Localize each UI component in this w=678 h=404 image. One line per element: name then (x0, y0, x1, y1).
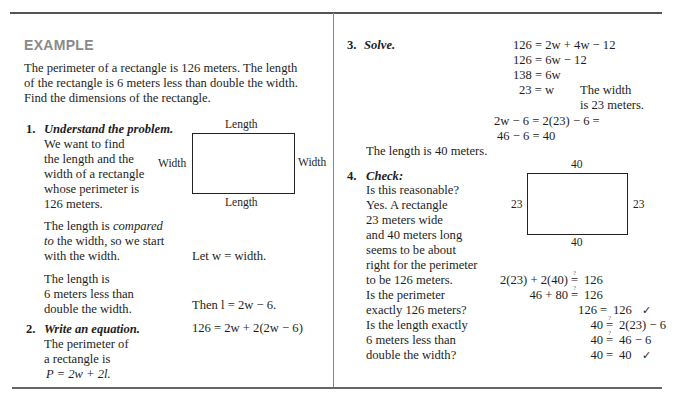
check-lhs: 40 (470, 318, 603, 333)
question-mark: ? (573, 266, 576, 281)
width-note: is 23 meters. (580, 98, 644, 113)
check-rhs: 126 (584, 288, 603, 303)
step-text: to be 126 meters. (366, 273, 453, 288)
step-number: 3. (347, 38, 356, 53)
check-lhs: 126 (470, 303, 597, 318)
check-op: ?= (606, 333, 613, 348)
top-rule (10, 12, 662, 14)
step-text: seems to be about (366, 243, 456, 258)
step-text: with the width. (44, 249, 120, 264)
question-mark: ? (573, 281, 576, 296)
equals-sign: = (600, 303, 607, 318)
check-lhs: 40 (470, 333, 603, 348)
emphasis: to (44, 234, 54, 248)
step-title: Check: (366, 169, 403, 184)
diagram-label-top: Length (225, 117, 258, 132)
question-mark: ? (608, 326, 611, 341)
check-lhs: 2(23) + 2(40) (470, 273, 568, 288)
step-text: The length is (44, 272, 110, 287)
check-op: ?= (571, 288, 578, 303)
checkmark-icon: ✓ (642, 348, 651, 363)
problem-line: of the rectangle is 6 meters less than d… (24, 76, 298, 91)
rectangle-shape (527, 173, 628, 235)
step-number: 2. (26, 322, 35, 337)
check-rhs: 126 (584, 273, 603, 288)
diagram-label-right: 23 (633, 197, 645, 212)
text-run: the width, so we start (54, 234, 165, 248)
step-text: 6 meters less than (44, 287, 134, 302)
diagram-label-bottom: 40 (571, 235, 583, 250)
step-text: and 40 meters long (366, 228, 462, 243)
step-text: width of a rectangle (44, 167, 144, 182)
step-text: exactly 126 meters? (366, 303, 467, 318)
solve-line: 46 − 6 = 40 (497, 129, 555, 144)
step-title: Understand the problem. (44, 122, 173, 137)
check-line: 40 ?= 46 − 6 (470, 333, 678, 348)
width-note: The width (580, 83, 631, 98)
diagram-label-left: 23 (511, 197, 523, 212)
step-text: Is the length exactly (366, 318, 468, 333)
step-text: whose perimeter is (44, 182, 139, 197)
step-text: to the width, so we start (44, 234, 164, 249)
step-number: 1. (26, 122, 35, 137)
diagram-label-left: Width (158, 156, 186, 171)
step-title: Solve. (364, 38, 395, 53)
step-text: Yes. A rectangle (366, 198, 448, 213)
bottom-rule (12, 387, 662, 389)
step-text: double the width. (44, 302, 132, 317)
check-line: 46 + 80 ?= 126 (470, 288, 678, 303)
diagram-label-bottom: Length (225, 195, 258, 210)
step-text: double the width? (366, 348, 456, 363)
check-rhs: 126 (613, 303, 632, 318)
question-mark: ? (608, 311, 611, 326)
emphasis: compared (113, 219, 163, 233)
equals-sign: = (606, 348, 613, 363)
checkmark-icon: ✓ (642, 303, 651, 318)
let-w-statement: Let w = width. (192, 249, 266, 264)
step-text: right for the perimeter (366, 258, 478, 273)
check-line: 40 ?= 2(23) − 6 (470, 318, 678, 333)
length-conclusion: The length is 40 meters. (366, 144, 487, 159)
step-number: 4. (347, 169, 356, 184)
step-text: We want to find (44, 137, 124, 152)
step-text: 126 meters. (44, 197, 103, 212)
step-text: The perimeter of (44, 337, 129, 352)
problem-line: Find the dimensions of the rectangle. (24, 91, 211, 106)
step-text: 23 meters wide (366, 213, 443, 228)
check-rhs: 46 − 6 (619, 333, 651, 348)
equation: 126 = 2w + 2(2w − 6) (192, 321, 303, 336)
solve-line: 126 = 2w + 4w − 12 (513, 38, 615, 53)
solve-line: 2w − 6 = 2(23) − 6 = (494, 114, 600, 129)
step-text: a rectangle is (44, 352, 110, 367)
example-heading: EXAMPLE (24, 38, 94, 53)
problem-line: The perimeter of a rectangle is 126 mete… (24, 61, 297, 76)
check-lhs: 40 (470, 348, 603, 363)
perimeter-formula: P = 2w + 2l. (46, 367, 111, 382)
check-rhs: 40 (619, 348, 632, 363)
step-text: the length and the (44, 152, 134, 167)
step-text: Is this reasonable? (366, 183, 459, 198)
solve-line: 138 = 6w (513, 68, 561, 83)
step-text: The length is compared (44, 219, 163, 234)
check-lhs: 46 + 80 (470, 288, 568, 303)
then-l-statement: Then l = 2w − 6. (192, 298, 276, 313)
column-divider (333, 13, 334, 388)
check-rhs: 2(23) − 6 (619, 318, 666, 333)
step-text: Is the perimeter (366, 288, 445, 303)
step-title: Write an equation. (44, 322, 140, 337)
rectangle-shape (192, 133, 295, 194)
step-text: 6 meters less than (366, 333, 456, 348)
solve-line: 23 = w (519, 83, 554, 98)
diagram-label-right: Width (298, 155, 326, 170)
text-run: The length is (44, 219, 113, 233)
diagram-label-top: 40 (571, 157, 583, 172)
solve-line: 126 = 6w − 12 (513, 53, 587, 68)
